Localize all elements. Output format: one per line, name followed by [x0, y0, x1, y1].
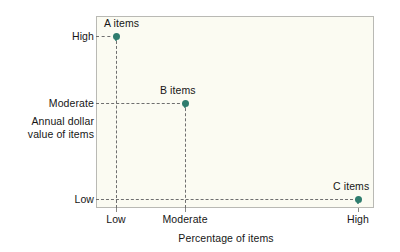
y-axis-tick-moderate: Moderate — [49, 97, 94, 109]
abc-analysis-chart: A items B items C items High Moderate Lo… — [0, 0, 400, 252]
data-point-b-items[interactable] — [182, 100, 189, 107]
data-label-b-items: B items — [160, 84, 196, 96]
x-axis-tick-moderate: Moderate — [162, 213, 207, 225]
gridline-b-vertical — [185, 103, 186, 208]
marker-tail-icon — [115, 37, 117, 41]
gridline-b-horizontal — [96, 103, 185, 104]
x-axis-title: Percentage of items — [178, 232, 273, 244]
marker-tail-icon — [184, 104, 186, 108]
x-axis-tick-low: Low — [106, 213, 126, 225]
x-tickmark-moderate — [185, 208, 186, 212]
x-tickmark-low — [116, 208, 117, 212]
y-axis-tick-low: Low — [74, 193, 94, 205]
y-axis-tick-high: High — [72, 30, 94, 42]
gridline-a-vertical — [116, 36, 117, 208]
y-axis-title-line1: Annual dollar — [31, 115, 94, 128]
marker-tail-icon — [357, 200, 359, 204]
data-label-c-items: C items — [333, 180, 369, 192]
data-label-a-items: A items — [104, 17, 139, 29]
data-point-a-items[interactable] — [113, 33, 120, 40]
x-tickmark-high — [358, 208, 359, 212]
x-axis-tick-high: High — [347, 213, 369, 225]
data-point-c-items[interactable] — [355, 196, 362, 203]
gridline-c-horizontal — [96, 199, 358, 200]
y-axis-title-line2: value of items — [28, 128, 94, 141]
